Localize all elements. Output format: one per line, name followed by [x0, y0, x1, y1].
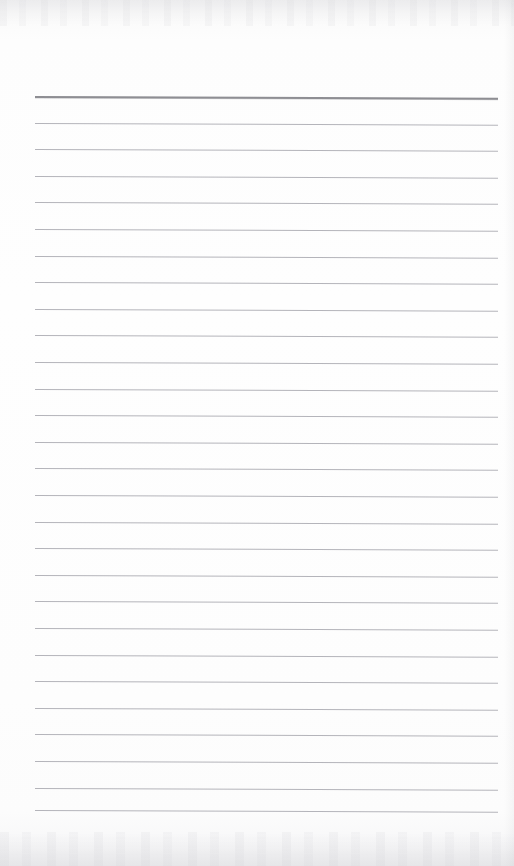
rule-line [35, 229, 498, 232]
rule-line [35, 548, 498, 551]
rule-line [35, 282, 498, 285]
rule-line [35, 495, 498, 498]
notepad-page [0, 0, 514, 866]
rule-line [35, 522, 498, 525]
rule-line [35, 309, 498, 312]
rule-line [35, 149, 498, 152]
scan-edge-right-shading [504, 0, 514, 866]
rule-line [35, 442, 498, 445]
rule-line [35, 335, 498, 338]
rule-line [35, 761, 498, 764]
rule-line [35, 708, 498, 711]
rule-line [35, 601, 498, 604]
rule-line [35, 362, 498, 365]
rule-line [35, 123, 498, 126]
rule-line [35, 468, 498, 471]
scan-noise-bottom-band [0, 832, 514, 866]
rule-line [35, 628, 498, 631]
rule-line [35, 788, 498, 791]
rule-line [35, 256, 498, 259]
header-rule-line [35, 96, 498, 100]
rule-line [35, 734, 498, 737]
rule-line [35, 176, 498, 179]
ruled-lines-layer [0, 0, 514, 866]
rule-line [35, 389, 498, 392]
rule-line [35, 575, 498, 578]
rule-line [35, 202, 498, 205]
rule-line [35, 655, 498, 658]
rule-line [35, 681, 498, 684]
rule-line [35, 415, 498, 418]
rule-line [35, 810, 498, 813]
